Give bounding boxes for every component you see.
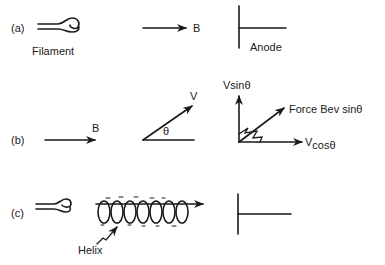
- panel-c-label: (c): [11, 208, 24, 219]
- vcos-suffix: cosθ: [312, 139, 335, 151]
- helix-icon: [96, 197, 203, 226]
- filament-label: Filament: [32, 46, 74, 57]
- velocity-label: V: [190, 91, 197, 102]
- diagram-canvas: [0, 0, 385, 265]
- force-label: Force Bev sinθ: [289, 104, 362, 115]
- helix-pointer-arrow: [97, 227, 117, 244]
- anode-icon-c: [238, 194, 291, 234]
- vcos-label: Vcosθ: [305, 137, 336, 148]
- angle-label: θ: [163, 126, 169, 137]
- anode-label: Anode: [250, 42, 282, 53]
- panel-a-label: (a): [11, 23, 24, 34]
- filament-icon-c: [36, 199, 71, 212]
- helix-label: Helix: [78, 245, 102, 256]
- filament-icon: [38, 18, 79, 32]
- panel-b-label: (b): [11, 135, 24, 146]
- vsin-label: Vsinθ: [223, 80, 251, 91]
- field-b-label: B: [193, 23, 200, 34]
- field-b-label-b: B: [92, 123, 99, 134]
